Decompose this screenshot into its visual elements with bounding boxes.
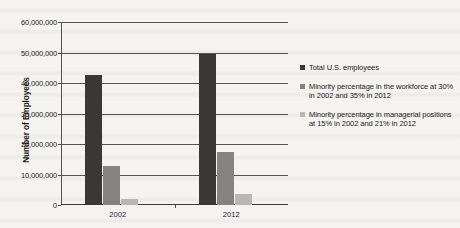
y-tick-mark — [58, 175, 61, 176]
y-tick-label: 30,000,000 — [21, 109, 57, 118]
legend-swatch-icon — [300, 112, 305, 117]
chart-legend: Total U.S. employees Minority percentage… — [300, 63, 456, 138]
plot-area: 010,000,00020,000,00030,000,00040,000,00… — [61, 22, 288, 205]
y-tick-label: 20,000,000 — [21, 140, 57, 149]
legend-item: Minority percentage in managerial positi… — [300, 110, 456, 129]
bar — [235, 194, 252, 205]
y-tick-mark — [58, 83, 61, 84]
y-axis-title: Number of Employees — [21, 55, 31, 185]
x-tick-label: 2002 — [109, 210, 126, 219]
y-tick-label: 10,000,000 — [21, 170, 57, 179]
y-tick-label: 50,000,000 — [21, 48, 57, 57]
bar-chart-figure: Number of Employees 010,000,00020,000,00… — [0, 0, 460, 228]
legend-item-label: Minority percentage in managerial positi… — [309, 110, 456, 129]
legend-item: Minority percentage in the workforce at … — [300, 82, 456, 101]
legend-swatch-icon — [300, 65, 305, 70]
y-tick-mark — [58, 114, 61, 115]
y-tick-mark — [58, 205, 61, 206]
legend-item-label: Minority percentage in the workforce at … — [309, 82, 456, 101]
bar — [199, 54, 216, 205]
y-tick-mark — [58, 53, 61, 54]
y-tick-label: 0 — [53, 201, 57, 210]
bar — [85, 75, 102, 205]
gridline — [61, 53, 288, 54]
bar — [103, 166, 120, 205]
y-tick-label: 60,000,000 — [21, 18, 57, 27]
y-tick-label: 40,000,000 — [21, 79, 57, 88]
y-tick-mark — [58, 22, 61, 23]
gridline — [61, 22, 288, 23]
x-tick-mark — [175, 205, 176, 208]
legend-item-label: Total U.S. employees — [309, 63, 379, 73]
bar — [217, 152, 234, 205]
x-tick-label: 2012 — [223, 210, 240, 219]
y-tick-mark — [58, 144, 61, 145]
legend-swatch-icon — [300, 84, 305, 89]
bar — [121, 199, 138, 205]
legend-item: Total U.S. employees — [300, 63, 456, 73]
